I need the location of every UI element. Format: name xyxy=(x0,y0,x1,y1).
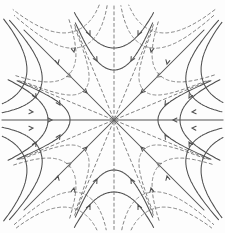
solid-bulge-w-sw-curve-2 xyxy=(2,136,27,221)
arrowhead-17 xyxy=(29,110,33,114)
arrowhead-32 xyxy=(71,188,75,192)
arrowhead-31 xyxy=(55,176,59,180)
dashed-bulge-n-nw-curve-2 xyxy=(13,5,99,33)
dashed-bulge-s-sw-curve-1 xyxy=(14,192,106,230)
solid-bulge-w-nw-curve-1 xyxy=(2,20,42,112)
arrowhead-15 xyxy=(165,101,169,105)
dashed-bulge-s-se-curve-1 xyxy=(122,192,214,230)
arrowhead-29 xyxy=(166,60,170,64)
solid-bulge-w-sw-curve-1 xyxy=(2,127,42,219)
arrowhead-20 xyxy=(192,110,196,114)
arrowhead-21 xyxy=(192,126,196,130)
solid-bulge-e-ne-curve-2 xyxy=(201,22,223,102)
arrowhead-33 xyxy=(166,176,170,180)
separatrix-lines xyxy=(2,6,223,230)
arrowhead-16 xyxy=(165,135,169,139)
solid-bulge-w-nw-curve-2 xyxy=(2,19,27,104)
arrowhead-27 xyxy=(55,60,59,64)
phase-portrait-figure xyxy=(0,0,225,233)
solid-bulge-e-se-curve-2 xyxy=(201,138,223,218)
dashed-bulge-n-ne-curve-2 xyxy=(129,5,215,33)
phase-portrait-canvas xyxy=(0,0,225,233)
arrowhead-18 xyxy=(29,126,33,130)
dashed-bulge-n-nw-curve-1 xyxy=(14,6,107,49)
dashed-bulge-n-ne-curve-1 xyxy=(121,6,214,49)
